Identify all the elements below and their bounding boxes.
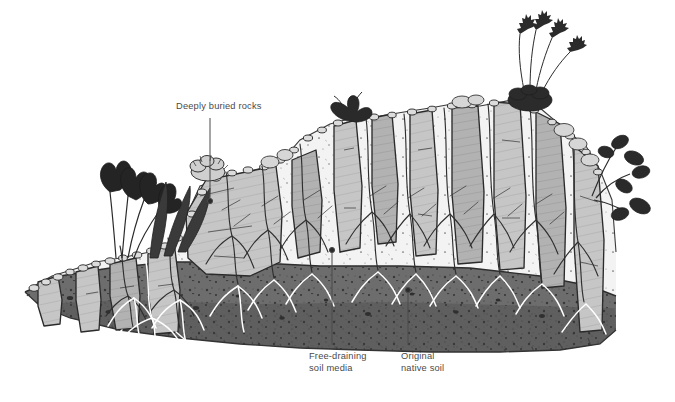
- illustration-canvas: Deeply buried rocks Free-draining soil m…: [0, 0, 675, 402]
- plant-rosette: [331, 92, 372, 122]
- label-deeply-buried-rocks: Deeply buried rocks: [176, 101, 262, 113]
- plant-cushion: [190, 155, 228, 181]
- label-original-native-soil: Original native soil: [401, 351, 444, 375]
- plant-grass-seedheads: [508, 10, 587, 111]
- label-free-draining-soil-media: Free-draining soil media: [309, 351, 367, 375]
- cross-section-illustration: [0, 0, 675, 402]
